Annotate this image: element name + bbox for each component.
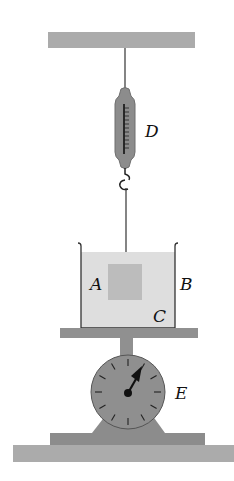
label-a: A [88,274,102,294]
scale-platform [60,328,198,338]
dial-hub [124,389,132,397]
scale-base [50,433,205,445]
ceiling-bar [48,32,195,48]
floor-bar [13,445,234,462]
hook-icon [120,168,130,190]
scale-dial [91,355,165,429]
diagram-canvas: D A B C [0,0,234,481]
label-c: C [153,306,166,326]
label-b: B [179,274,193,294]
label-e: E [174,383,188,403]
spring-balance [115,88,135,169]
label-d: D [144,121,159,141]
submerged-block [108,264,142,300]
